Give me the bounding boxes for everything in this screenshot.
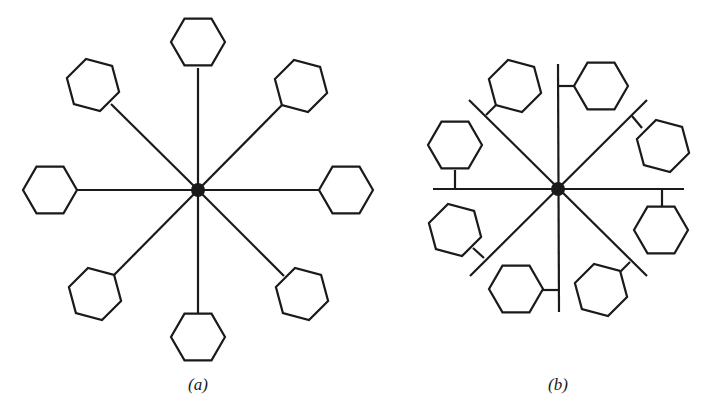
hexagon-node bbox=[171, 19, 225, 66]
hexagon-node bbox=[428, 122, 482, 169]
hexagon-node bbox=[171, 314, 225, 361]
hexagon-node bbox=[67, 59, 119, 111]
hexagon-node bbox=[489, 266, 543, 313]
hexagon-node bbox=[275, 60, 327, 112]
caption-a-text: (a) bbox=[188, 375, 208, 394]
hexagon-node bbox=[69, 268, 121, 320]
drop-stub bbox=[632, 116, 642, 128]
hexagon-node bbox=[574, 63, 628, 110]
spoke-link bbox=[113, 190, 198, 276]
network-topology-diagram bbox=[0, 0, 713, 419]
panel-b-bus-star-topology bbox=[428, 60, 689, 316]
central-hub bbox=[191, 183, 205, 197]
hexagon-node bbox=[23, 167, 77, 214]
caption-b-text: (b) bbox=[548, 375, 568, 394]
drop-stub bbox=[620, 262, 630, 272]
hexagon-node bbox=[319, 167, 373, 214]
hexagon-node bbox=[489, 60, 541, 112]
hexagon-node bbox=[637, 120, 689, 172]
central-hub bbox=[551, 182, 565, 196]
caption-b: (b) bbox=[548, 375, 568, 395]
hexagon-node bbox=[575, 264, 627, 316]
caption-a: (a) bbox=[188, 375, 208, 395]
panel-a-star-topology bbox=[23, 19, 373, 361]
spoke-link bbox=[198, 104, 283, 190]
drop-stub bbox=[473, 248, 484, 258]
hexagon-node bbox=[634, 207, 688, 254]
spoke-link bbox=[198, 190, 284, 276]
spoke-link bbox=[111, 104, 198, 190]
